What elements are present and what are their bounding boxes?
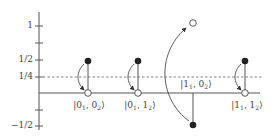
tick-label-neg-half: −1/2 xyxy=(3,121,33,130)
state-label-1102: |11, 02⟩ xyxy=(180,80,211,90)
diagram-svg xyxy=(0,0,277,138)
final-dot xyxy=(85,90,92,97)
tick-label-1: 1 xyxy=(3,21,33,30)
transition-1102 xyxy=(165,20,196,129)
tick-label-half: 1/2 xyxy=(3,55,33,64)
initial-dot xyxy=(135,58,142,65)
final-dot xyxy=(190,20,197,27)
initial-dot xyxy=(242,58,249,65)
initial-dot xyxy=(190,122,197,129)
final-dot xyxy=(135,90,142,97)
tick-label-quarter: 1/4 xyxy=(3,72,33,81)
final-dot xyxy=(242,90,249,97)
diagram-canvas: 1 1/2 1/4 −1/2 |01, 02⟩ |01, 12⟩ |11, 02… xyxy=(0,0,277,138)
state-label-1112: |11, 12⟩ xyxy=(231,101,262,111)
initial-dot xyxy=(85,58,92,65)
state-label-0112: |01, 12⟩ xyxy=(124,101,155,111)
state-label-0102: |01, 02⟩ xyxy=(73,101,104,111)
